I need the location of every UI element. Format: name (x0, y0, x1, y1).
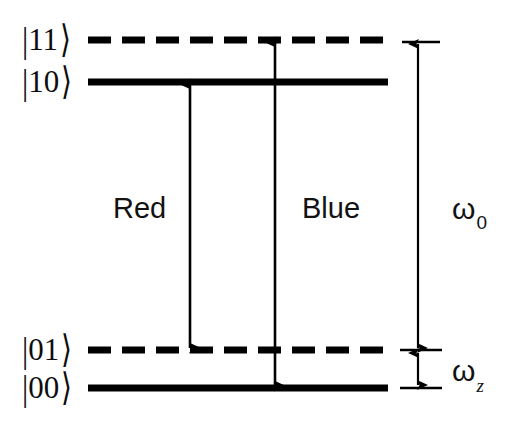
ket-bar-10: | (22, 63, 28, 100)
level-label-01-digits: 01 (28, 332, 59, 367)
level-label-00-digits: 00 (28, 370, 59, 405)
energy-level-diagram: |11⟩ |10⟩ |01⟩ |00⟩ Red Blue ω0 ωz (0, 0, 527, 422)
ket-bra-00: ⟩ (61, 369, 72, 407)
omega-zero-subscript: 0 (476, 212, 487, 233)
level-label-11-digits: 11 (28, 22, 58, 57)
ket-bra-11: ⟩ (60, 21, 71, 59)
red-transition-label: Red (113, 194, 166, 223)
blue-transition-label: Blue (302, 194, 360, 223)
omega-z-label: ωz (452, 356, 483, 391)
omega-z-subscript: z (476, 375, 483, 396)
omega-zero-symbol: ω (452, 192, 475, 225)
ket-bra-10: ⟩ (61, 63, 72, 101)
level-label-11: |11⟩ (22, 24, 71, 55)
level-label-00: |00⟩ (22, 372, 72, 403)
ket-bar-00: | (22, 369, 28, 406)
omega-zero-label: ω0 (452, 194, 486, 229)
ket-bra-01: ⟩ (61, 331, 72, 369)
ket-bar-01: | (22, 331, 28, 368)
level-label-01: |01⟩ (22, 334, 72, 365)
diagram-canvas (0, 0, 527, 422)
level-label-10-digits: 10 (28, 64, 59, 99)
level-label-10: |10⟩ (22, 66, 72, 97)
omega-z-symbol: ω (452, 354, 475, 387)
ket-bar-11: | (22, 21, 28, 58)
